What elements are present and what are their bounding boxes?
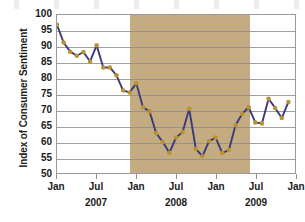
- data-point-marker: [194, 147, 199, 152]
- data-point-marker: [187, 107, 192, 112]
- data-point-marker: [280, 116, 285, 121]
- data-point-marker: [147, 109, 152, 114]
- data-point-marker: [81, 50, 86, 55]
- sentiment-line-series: [57, 15, 295, 173]
- data-point-marker: [154, 131, 159, 136]
- data-point-marker: [286, 100, 291, 105]
- y-axis-tick: 95: [26, 24, 52, 36]
- data-point-marker: [207, 139, 212, 144]
- data-point-marker: [260, 121, 265, 126]
- data-point-marker: [220, 151, 225, 156]
- consumer-sentiment-chart: Index of Consumer Sentiment 100959085807…: [0, 0, 305, 222]
- x-axis-tickmark: [56, 174, 57, 179]
- data-point-marker: [68, 49, 73, 54]
- y-axis-tick: 75: [26, 88, 52, 100]
- data-point-marker: [273, 106, 278, 111]
- data-point-marker: [114, 73, 119, 78]
- data-point-marker: [108, 65, 113, 70]
- data-point-marker: [101, 65, 106, 70]
- data-point-marker: [200, 154, 205, 159]
- x-axis-year-labels: 200720082009: [0, 196, 305, 212]
- x-axis-tick: Jan: [36, 180, 76, 194]
- y-axis-tick: 70: [26, 104, 52, 116]
- x-axis-year: 2008: [152, 196, 200, 210]
- x-axis-tick: Jan: [116, 180, 156, 194]
- data-point-marker: [134, 81, 139, 86]
- y-axis-tick-labels: 10095908580757065605550: [26, 14, 52, 174]
- y-axis-tick: 100: [26, 8, 52, 20]
- series-line: [57, 25, 288, 156]
- y-axis-tick: 65: [26, 120, 52, 132]
- data-point-marker: [213, 135, 218, 140]
- data-point-marker: [167, 151, 172, 156]
- y-axis-tick: 50: [26, 168, 52, 180]
- data-point-marker: [121, 88, 126, 93]
- x-axis-year: 2007: [72, 196, 120, 210]
- data-point-marker: [94, 43, 99, 48]
- x-axis-tick-labels: JanJulJanJulJanJulJan: [0, 180, 305, 196]
- x-axis-tickmark: [256, 174, 257, 179]
- data-point-marker: [246, 105, 251, 110]
- data-point-marker: [227, 148, 232, 153]
- x-axis-tickmark: [176, 174, 177, 179]
- plot-area: [56, 14, 296, 174]
- data-point-marker: [61, 40, 66, 45]
- data-point-marker: [253, 120, 258, 125]
- y-axis-tick: 80: [26, 72, 52, 84]
- data-point-marker: [57, 23, 59, 28]
- y-axis-tick: 55: [26, 152, 52, 164]
- data-point-marker: [266, 96, 271, 101]
- x-axis-tick: Jan: [196, 180, 236, 194]
- x-axis-tickmark: [216, 174, 217, 179]
- data-point-marker: [161, 140, 166, 145]
- y-axis-tick: 90: [26, 40, 52, 52]
- data-point-marker: [233, 123, 238, 128]
- x-axis-tick: Jul: [76, 180, 116, 194]
- data-point-marker: [240, 112, 245, 117]
- data-point-marker: [75, 53, 80, 58]
- x-axis-tick: Jul: [236, 180, 276, 194]
- y-axis-tick: 60: [26, 136, 52, 148]
- x-axis-tick: Jan: [276, 180, 305, 194]
- x-axis-tickmark: [136, 174, 137, 179]
- data-point-marker: [88, 59, 93, 64]
- data-point-marker: [174, 135, 179, 140]
- x-axis-year: 2009: [232, 196, 280, 210]
- data-point-marker: [127, 90, 132, 95]
- x-axis-tickmark: [96, 174, 97, 179]
- y-axis-tick: 85: [26, 56, 52, 68]
- data-point-marker: [141, 105, 146, 110]
- x-axis-tick: Jul: [156, 180, 196, 194]
- x-axis-tickmark: [296, 174, 297, 179]
- data-point-marker: [180, 130, 185, 135]
